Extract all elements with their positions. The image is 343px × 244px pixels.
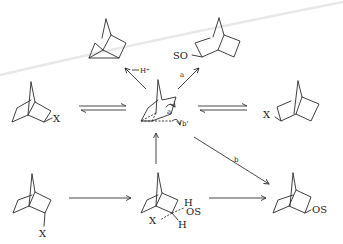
os-product-label: OS: [312, 204, 327, 215]
x-right-structure: X: [263, 81, 319, 121]
nortricyclene-structure: [89, 19, 126, 58]
curly-a-label: a: [167, 108, 171, 116]
proton-label: H⁺: [140, 67, 150, 75]
path-b-label: b: [234, 156, 239, 164]
h-bottom-label: H: [178, 219, 187, 230]
exo-x-structure: X: [12, 82, 61, 124]
curly-b-label: b': [182, 120, 188, 128]
x-bottom-left-label: X: [39, 228, 47, 239]
so-label: SO: [173, 50, 188, 61]
scan-glare: [0, 2, 343, 75]
transition-state-structure: H OS X H: [141, 173, 201, 230]
x-center-bottom-label: X: [149, 215, 157, 226]
x-right-label: X: [263, 109, 271, 120]
endo-x-structure: X: [13, 174, 51, 239]
norbornyl-cation-structure: a b': [141, 80, 188, 128]
x-left-label: X: [53, 113, 61, 124]
path-a-label: a: [180, 71, 184, 79]
arrow-path-b: [194, 137, 269, 184]
os-center-label: OS: [186, 206, 201, 217]
exo-os-product-structure: OS: [273, 173, 327, 215]
reaction-scheme: SO X a b' X X: [0, 0, 343, 244]
